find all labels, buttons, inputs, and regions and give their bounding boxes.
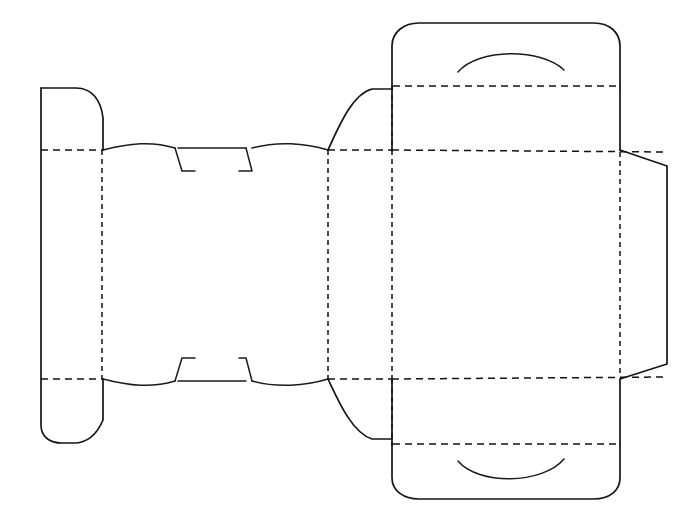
canvas-background	[0, 0, 692, 530]
dieline-drawing	[0, 0, 692, 530]
dieline-canvas: Carton Dieline Template folding-carton-f…	[0, 0, 692, 530]
